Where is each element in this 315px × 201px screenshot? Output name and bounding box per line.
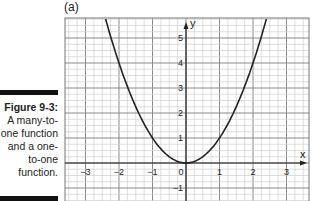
- graph: −3−2−1012354321−1xy: [0, 0, 315, 201]
- svg-text:1: 1: [217, 167, 222, 177]
- svg-text:2: 2: [250, 167, 255, 177]
- svg-text:3: 3: [178, 83, 183, 93]
- svg-text:−2: −2: [114, 167, 124, 177]
- svg-text:x: x: [300, 148, 306, 160]
- grid: [65, 18, 309, 201]
- svg-text:−3: −3: [80, 167, 90, 177]
- svg-text:−1: −1: [147, 167, 157, 177]
- svg-text:1: 1: [178, 133, 183, 143]
- svg-text:5: 5: [178, 33, 183, 43]
- svg-text:0: 0: [178, 167, 183, 177]
- tick-labels: −3−2−1012354321−1xy: [80, 17, 306, 193]
- axes: [65, 22, 307, 201]
- svg-text:−1: −1: [173, 183, 183, 193]
- svg-text:3: 3: [284, 167, 289, 177]
- svg-text:2: 2: [178, 108, 183, 118]
- svg-text:4: 4: [178, 58, 183, 68]
- svg-text:y: y: [190, 17, 196, 29]
